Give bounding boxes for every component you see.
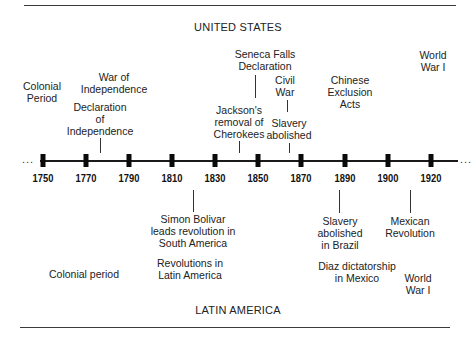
connector-jackson	[239, 141, 240, 153]
event-world-war-1-la: World War I	[404, 273, 431, 297]
event-world-war-1-us: World War I	[419, 50, 446, 74]
year-label: 1900	[378, 172, 399, 184]
event-slavery-abolished-us: Slavery abolished	[267, 118, 312, 142]
event-slavery-abolished-brazil: Slavery abolished in Brazil	[318, 216, 363, 251]
timeline-axis	[40, 160, 458, 162]
tick-1830	[213, 154, 218, 167]
connector-slavery-brazil	[339, 190, 340, 213]
year-label: 1810	[162, 172, 183, 184]
tick-1850	[256, 154, 261, 167]
tick-1890	[343, 154, 348, 167]
year-label: 1770	[76, 172, 97, 184]
connector-declaration	[100, 138, 101, 153]
connector-seneca-falls	[255, 75, 256, 98]
event-colonial-period-la: Colonial period	[49, 269, 119, 281]
event-mexican-revolution: Mexican Revolution	[385, 216, 435, 240]
connector-simon-bolivar	[193, 190, 194, 212]
event-jacksons-removal: Jackson's removal of Cherokees	[214, 105, 265, 140]
connector-civil-war	[287, 100, 288, 112]
bottom-rule	[20, 327, 450, 328]
continuation-dots-left: ...	[22, 153, 34, 165]
event-colonial-period-us: Colonial Period	[23, 81, 61, 105]
connector-mexican-revolution	[410, 190, 411, 213]
event-revolutions-latin-america: Revolutions in Latin America	[157, 258, 223, 282]
tick-1790	[127, 154, 132, 167]
year-label: 1890	[335, 172, 356, 184]
year-label: 1870	[291, 172, 312, 184]
continuation-dots-right: ...	[460, 153, 472, 165]
event-simon-bolivar: Simon Bolivar leads revolution in South …	[151, 214, 236, 249]
united-states-heading: UNITED STATES	[194, 21, 282, 33]
year-label: 1750	[33, 172, 54, 184]
tick-1920	[429, 154, 434, 167]
year-label: 1850	[248, 172, 269, 184]
event-diaz-dictatorship: Diaz dictatorship in Mexico	[318, 261, 396, 285]
tick-1810	[170, 154, 175, 167]
event-declaration-of-independence: Declaration of Independence	[67, 102, 134, 137]
tick-1770	[84, 154, 89, 167]
tick-1900	[386, 154, 391, 167]
event-civil-war: Civil War	[275, 75, 295, 99]
latin-america-heading: LATIN AMERICA	[195, 304, 281, 316]
event-war-of-independence: War of Independence	[81, 72, 148, 96]
tick-1870	[299, 154, 304, 167]
top-rule	[24, 5, 456, 6]
connector-slavery-abolished-us	[289, 143, 290, 153]
year-label: 1790	[119, 172, 140, 184]
event-chinese-exclusion: Chinese Exclusion Acts	[328, 75, 373, 110]
year-label: 1830	[205, 172, 226, 184]
year-label: 1920	[421, 172, 442, 184]
event-seneca-falls: Seneca Falls Declaration	[235, 49, 296, 73]
tick-1750	[41, 154, 46, 167]
